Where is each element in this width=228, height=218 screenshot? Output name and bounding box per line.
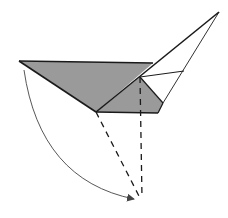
valley-fold-line-left: [96, 112, 140, 198]
bottom-edge: [96, 112, 158, 113]
origami-diagram: [0, 0, 228, 218]
diagram-canvas: [0, 0, 228, 218]
upper-white-flap: [140, 12, 219, 103]
